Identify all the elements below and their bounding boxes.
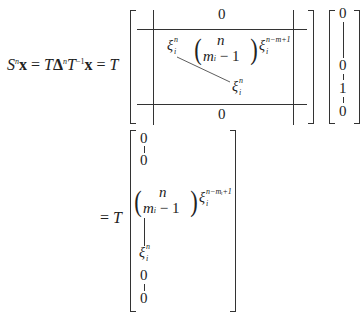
vector-dots-line bbox=[343, 22, 344, 58]
binomial-term: ( n mi − 1 ) ξn−m+1i bbox=[193, 32, 265, 66]
xi-base: ξ bbox=[259, 38, 265, 53]
binom-bottom: mi − 1 bbox=[143, 200, 180, 217]
right-paren: ) bbox=[190, 186, 198, 216]
result-entry: 0 bbox=[140, 290, 148, 307]
left-bracket bbox=[130, 10, 136, 124]
right-paren: ) bbox=[250, 34, 258, 64]
symbol-T: T bbox=[113, 209, 122, 226]
xi-base: ξ bbox=[232, 79, 238, 94]
symbol-T: T bbox=[67, 56, 76, 73]
symbol-T: T bbox=[109, 56, 118, 73]
binomial-coefficient: n mi − 1 bbox=[143, 184, 189, 218]
result-entry: 0 bbox=[140, 267, 148, 284]
result-left-bracket bbox=[130, 130, 136, 312]
binom-m: m bbox=[143, 200, 154, 216]
xi-base: ξ bbox=[167, 38, 173, 53]
binom-rest: − 1 bbox=[160, 200, 180, 216]
xi-power: ξn−mᵢ+1i bbox=[199, 190, 205, 206]
partition-vertical-right bbox=[293, 10, 294, 125]
equals-sign: = bbox=[31, 56, 40, 73]
xi-sup: n−m+1 bbox=[266, 35, 291, 44]
vector-dots-line bbox=[144, 218, 145, 246]
xi-sub: i bbox=[206, 199, 208, 208]
symbol-T: T bbox=[44, 56, 53, 73]
left-paren: ( bbox=[194, 34, 202, 64]
xi-base: ξ bbox=[199, 190, 205, 205]
binom-sub: i bbox=[214, 54, 216, 63]
vector-x: x bbox=[19, 56, 27, 73]
binom-top: n bbox=[217, 32, 225, 49]
xi-power: ξn−m+1i bbox=[259, 38, 265, 54]
xi-sup: n bbox=[174, 35, 178, 44]
result-xi: ξni bbox=[139, 245, 145, 261]
partition-vertical-left bbox=[153, 10, 154, 125]
binom-m: m bbox=[203, 48, 214, 64]
binom-bottom: mi − 1 bbox=[203, 48, 240, 65]
equals-sign: = bbox=[100, 209, 109, 226]
binomial-coefficient: n mi − 1 bbox=[203, 32, 249, 66]
xi-top-left: ξni bbox=[167, 38, 173, 54]
result-entry: 0 bbox=[140, 152, 148, 169]
vector-entry-one: 1 bbox=[339, 80, 347, 97]
equation-lhs: Snx = TΔnT−1x = T bbox=[7, 56, 118, 74]
equals-sign: = bbox=[96, 56, 105, 73]
xi-base: ξ bbox=[139, 245, 145, 260]
vector-entry: 0 bbox=[339, 5, 347, 22]
vector-x: x bbox=[84, 56, 92, 73]
binom-sub: i bbox=[154, 206, 156, 215]
zero-block-top: 0 bbox=[218, 6, 226, 23]
xi-sup: n bbox=[146, 242, 150, 251]
right-bracket bbox=[308, 10, 314, 124]
xi-bottom-right: ξni bbox=[232, 79, 238, 95]
zero-block-bottom: 0 bbox=[218, 106, 226, 123]
result-entry: 0 bbox=[140, 130, 148, 147]
xi-sup: n−mᵢ+1 bbox=[206, 187, 232, 196]
result-right-bracket bbox=[230, 130, 236, 312]
symbol-Delta: Δ bbox=[53, 56, 63, 73]
equation-line2: = T bbox=[100, 209, 122, 227]
symbol-S: S bbox=[7, 56, 15, 73]
xi-sub: i bbox=[266, 47, 268, 56]
partition-horizontal-bottom bbox=[137, 104, 307, 105]
xi-sub: i bbox=[146, 254, 148, 263]
vector-entry: 0 bbox=[339, 57, 347, 74]
xi-sup: n bbox=[239, 76, 243, 85]
xi-sub: i bbox=[239, 88, 241, 97]
result-binomial-term: ( n mi − 1 ) ξn−mᵢ+1i bbox=[133, 184, 205, 218]
vector-entry: 0 bbox=[339, 103, 347, 120]
vector-right-bracket bbox=[354, 10, 360, 124]
partition-horizontal-top bbox=[137, 29, 307, 30]
binom-rest: − 1 bbox=[220, 48, 240, 64]
binom-top: n bbox=[159, 184, 167, 201]
vector-left-bracket bbox=[329, 10, 335, 124]
left-paren: ( bbox=[134, 186, 142, 216]
